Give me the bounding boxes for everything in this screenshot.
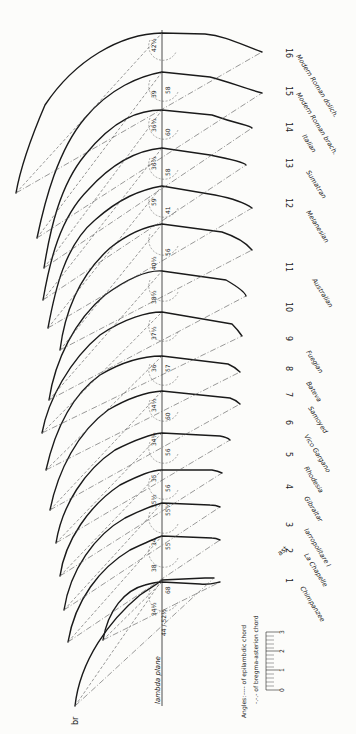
angle-12-ba: 41 — [164, 206, 171, 214]
angle-13-ep: 58 — [164, 168, 171, 176]
name-7: Samoyed — [306, 405, 329, 436]
name-16: Modern Roman dolich. — [294, 53, 339, 119]
name-4: Gibraltar — [302, 495, 325, 525]
scale-label-2: 2 — [278, 649, 285, 653]
skull-profiles — [16, 33, 262, 706]
asterion-label: ast — [276, 544, 290, 557]
specimen-names: Chimpanzee La Chapelle Iarropolitare I G… — [294, 53, 339, 624]
name-12: Melanesian — [304, 209, 330, 244]
occipital-profiles-diagram: 42½ 39 58 36½ 60 36½ 58 41 59 56 40½ 38½… — [0, 0, 356, 734]
angle-1-ep: 68 — [164, 586, 171, 594]
number-6: 6 — [284, 420, 293, 425]
name-14: Italian — [300, 133, 317, 154]
bregma-point-label: br — [71, 716, 80, 725]
angle-13-ba: 36½ — [150, 156, 157, 170]
angle-9-ba: 37½ — [150, 326, 157, 340]
profile-2 — [75, 578, 214, 706]
name-5: Rhodesia — [302, 465, 325, 495]
angle-7-ep: 60 — [164, 412, 171, 420]
number-11: 11 — [284, 262, 293, 272]
legend-title: Angles: — [240, 696, 248, 718]
angle-11-ba: 40½ — [150, 256, 157, 270]
scale-label-3: 3 — [278, 630, 285, 634]
specimen-numbers: 1 2 3 4 5 6 7 8 9 10 11 12 13 14 15 16 — [284, 48, 293, 583]
angle-15-ep: 58 — [164, 86, 171, 94]
legend-bregma-asterion: -.-.- of bregma-asterion chord — [252, 615, 260, 704]
angle-14-ba: 36½ — [150, 118, 157, 132]
angle-1-extra: 44 / 52½ — [160, 609, 167, 636]
name-1: Chimpanzee — [298, 585, 326, 624]
angle-12-ep: 59 — [150, 198, 157, 206]
name-9: Fuegian — [304, 349, 324, 375]
angle-4-ep: 55½ — [164, 502, 171, 516]
chords — [16, 33, 262, 706]
profile-3 — [68, 536, 220, 642]
legend: Angles: ---- of epilambdic chord -.-.- o… — [240, 615, 260, 718]
angle-6-ba: 34½ — [150, 432, 157, 446]
angle-6-ep: 56 — [164, 448, 171, 456]
name-15: Modern Roman brach. — [294, 91, 339, 156]
lambda-plane-label: lambda plane — [154, 656, 162, 704]
number-12: 12 — [284, 198, 293, 208]
angle-2-ba: 38 — [150, 564, 157, 572]
profile-7 — [50, 391, 240, 510]
number-13: 13 — [284, 158, 293, 168]
scale-bar: 3 2 1 0 — [266, 630, 285, 692]
angle-8-ba: 36 — [150, 364, 157, 372]
number-16: 16 — [284, 48, 293, 58]
angle-3-ba: 34 — [150, 538, 157, 546]
legend-epilambdic: ---- of epilambdic chord — [240, 625, 248, 695]
profile-9 — [42, 312, 242, 433]
number-4: 4 — [284, 484, 293, 489]
number-9: 9 — [284, 336, 293, 341]
angle-16-ep: 42½ — [150, 38, 157, 52]
number-15: 15 — [284, 86, 293, 96]
scale-label-0: 0 — [278, 688, 285, 692]
angle-7-ba: 34½ — [150, 398, 157, 412]
angle-4-ba: 35½ — [150, 494, 157, 508]
name-10: Australian — [310, 276, 335, 309]
number-5: 5 — [284, 452, 293, 457]
angle-5-ba: 35 — [150, 474, 157, 482]
angle-14-ep: 60 — [164, 128, 171, 136]
name-8: Bateva — [304, 380, 323, 404]
number-14: 14 — [284, 122, 293, 132]
scale-label-1: 1 — [278, 668, 285, 672]
name-13: Sumatran — [304, 169, 328, 200]
profile-5 — [60, 470, 222, 576]
number-3: 3 — [284, 522, 293, 527]
number-8: 8 — [284, 366, 293, 371]
angle-5-ep: 56 — [164, 484, 171, 492]
angle-8-ep: 57 — [164, 364, 171, 372]
number-1: 1 — [284, 578, 293, 583]
profile-6 — [56, 433, 230, 543]
profile-10 — [49, 271, 246, 400]
number-7: 7 — [284, 392, 293, 397]
number-10: 10 — [284, 302, 293, 312]
angle-3-ep: 55 — [164, 542, 171, 550]
